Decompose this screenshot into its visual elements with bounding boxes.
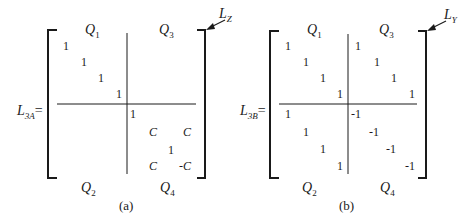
matrix-entry: -1 (386, 143, 396, 155)
matrix-entry: 1 (303, 126, 309, 138)
matrix-entry: 1 (285, 108, 291, 120)
q-sub: 3 (169, 30, 174, 40)
matrix-label-b-sub: 3B (248, 111, 258, 121)
matrix-entry: 1 (98, 72, 104, 84)
arrowhead-a (206, 23, 215, 30)
matrix-entry: -1 (369, 126, 379, 138)
q-main: Q (307, 22, 317, 37)
quadrant-label-a-q1: Q1 (85, 23, 100, 42)
matrix-entry: 1 (320, 143, 326, 155)
quadrant-label-a-q4: Q4 (160, 181, 175, 200)
q-sub: 3 (389, 30, 394, 40)
equals-sign-a: = (35, 103, 43, 118)
matrix-entry: 1 (130, 108, 136, 120)
quadrant-label-b-q2: Q2 (302, 181, 317, 200)
matrix-entry: 1 (303, 56, 309, 68)
matrix-entry: -1 (405, 160, 415, 172)
q-main: Q (380, 180, 390, 195)
right-bracket-a (197, 30, 205, 178)
corner-label-b-main: L (444, 7, 452, 22)
matrix-entry: 1 (391, 72, 397, 84)
arrowhead-b (427, 24, 436, 31)
matrix-label-a-main: L (17, 103, 25, 118)
quadrant-label-b-q4: Q4 (380, 181, 395, 200)
corner-label-a: LZ (219, 7, 232, 26)
matrix-entry: 1 (337, 88, 343, 100)
matrix-line-art (0, 0, 474, 217)
q-sub: 1 (95, 30, 100, 40)
q-sub: 2 (91, 188, 96, 198)
q-main: Q (85, 22, 95, 37)
matrix-entry: 1 (409, 88, 415, 100)
right-bracket-b (418, 31, 426, 178)
matrix-entry: -C (179, 160, 191, 172)
q-main: Q (160, 180, 170, 195)
q-sub: 1 (317, 30, 322, 40)
left-bracket-a (48, 30, 57, 178)
matrix-entry: 1 (168, 144, 174, 156)
quadrant-label-b-q3: Q3 (379, 23, 394, 42)
matrix-entry: 1 (63, 40, 69, 52)
corner-label-b: LY (444, 8, 457, 27)
matrix-entry: C (183, 126, 191, 138)
q-main: Q (159, 22, 169, 37)
matrix-entry: 1 (355, 40, 361, 52)
matrix-entry: 1 (116, 88, 122, 100)
matrix-entry: 1 (285, 40, 291, 52)
matrix-label-b: L3B= (240, 104, 266, 123)
matrix-entry: 1 (337, 160, 343, 172)
quadrant-label-a-q3: Q3 (159, 23, 174, 42)
quadrant-label-a-q2: Q2 (81, 181, 96, 200)
matrix-entry: 1 (81, 56, 87, 68)
corner-label-b-sub: Y (452, 15, 457, 25)
q-sub: 4 (170, 188, 175, 198)
matrix-entry: 1 (374, 56, 380, 68)
matrix-entry: C (149, 160, 157, 172)
equals-sign-b: = (258, 103, 266, 118)
corner-label-a-main: L (219, 6, 227, 21)
matrix-entry: 1 (320, 72, 326, 84)
caption-a: (a) (119, 199, 133, 212)
q-main: Q (81, 180, 91, 195)
matrix-entry: -1 (351, 108, 361, 120)
matrix-label-a: L3A= (17, 104, 43, 123)
q-sub: 4 (390, 188, 395, 198)
q-main: Q (302, 180, 312, 195)
matrix-label-a-sub: 3A (25, 111, 35, 121)
q-main: Q (379, 22, 389, 37)
q-sub: 2 (312, 188, 317, 198)
matrix-label-b-main: L (240, 103, 248, 118)
corner-label-a-sub: Z (227, 14, 232, 24)
matrix-entry: C (149, 126, 157, 138)
caption-b: (b) (339, 199, 354, 212)
quadrant-label-b-q1: Q1 (307, 23, 322, 42)
left-bracket-b (270, 31, 279, 178)
